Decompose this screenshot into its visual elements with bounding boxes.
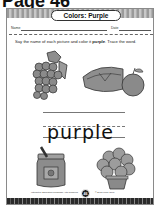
footer-left-text: Interactive Education Language Arts Teac… [31, 191, 78, 193]
pie-picture [79, 59, 149, 99]
footer: Interactive Education Language Arts Teac… [7, 188, 153, 204]
grapes-picture [27, 49, 73, 105]
footer-right-text: © Evan-Moor Corp. [95, 191, 115, 193]
name-line [21, 30, 107, 31]
worksheet-title: Colors: Purple [51, 10, 121, 21]
date-line [119, 30, 151, 31]
page-number-badge: 46 [81, 189, 90, 198]
trace-line-top [43, 112, 125, 113]
name-label: Name [11, 26, 20, 30]
footer-decorative-band [7, 198, 153, 204]
dashed-divider [9, 34, 153, 38]
instruction-text: Say the name of each picture and color i… [15, 39, 155, 44]
trace-word: purple [47, 121, 114, 143]
name-date-row: Name Date [11, 26, 151, 32]
trace-word-area: purple [43, 112, 125, 146]
date-label: Date [111, 26, 118, 30]
worksheet: Colors: Purple Name Date Say the name of… [6, 8, 154, 205]
flower-plant-picture [95, 147, 139, 191]
jam-jar-picture [33, 145, 69, 189]
